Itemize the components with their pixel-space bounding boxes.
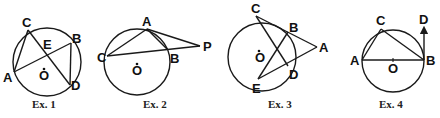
label-O: O [388, 61, 398, 76]
label-E: E [252, 81, 261, 96]
label-E: E [43, 37, 52, 52]
label-C: C [97, 50, 107, 65]
label-D: D [419, 12, 428, 27]
geometry-figures: C B E O A D Ex. 1 A C B P O Ex. 2 C B A … [0, 0, 440, 118]
label-A: A [350, 53, 360, 68]
label-O: O [132, 63, 142, 78]
label-A: A [319, 40, 329, 55]
chord-AC [362, 29, 381, 60]
label-B: B [289, 20, 298, 35]
label-P: P [203, 39, 212, 54]
secant-CP [107, 46, 200, 56]
chord-CB [381, 29, 424, 60]
secant-EA [258, 47, 317, 79]
caption-ex-4: Ex. 4 [379, 98, 403, 110]
label-A: A [142, 14, 152, 29]
circle-2 [104, 29, 170, 95]
figure-ex-2: A C B P O Ex. 2 [97, 14, 212, 110]
figure-ex-3: C B A D E O Ex. 3 [228, 1, 329, 110]
figure-ex-4: C D A B O Ex. 4 [350, 12, 435, 110]
label-B: B [170, 51, 179, 66]
label-C: C [22, 15, 32, 30]
caption-ex-2: Ex. 2 [143, 98, 167, 110]
caption-ex-3: Ex. 3 [268, 98, 292, 110]
figure-ex-1: C B E O A D Ex. 1 [3, 15, 81, 110]
label-O: O [39, 68, 49, 83]
label-D: D [289, 67, 298, 82]
label-C: C [251, 1, 261, 16]
caption-ex-1: Ex. 1 [32, 98, 56, 110]
label-O: O [255, 50, 265, 65]
label-D: D [71, 78, 80, 93]
label-B: B [426, 53, 435, 68]
label-C: C [376, 13, 386, 28]
label-B: B [72, 31, 81, 46]
label-A: A [3, 70, 13, 85]
